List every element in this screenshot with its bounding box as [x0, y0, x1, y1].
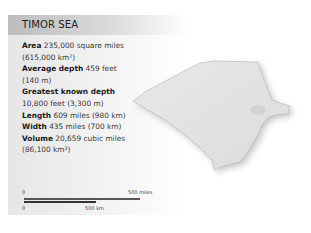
page-title: TIMOR SEA — [22, 19, 78, 30]
scale-bar: 0 500 miles 0 500 km — [22, 189, 172, 219]
gulf-bay — [250, 105, 266, 115]
scale-km-zero: 0 — [22, 205, 25, 211]
scale-km-bar — [24, 201, 96, 203]
sea-map — [120, 50, 311, 190]
scale-miles-zero: 0 — [22, 189, 25, 195]
scale-km-label: 500 km — [85, 205, 104, 211]
scale-miles-bar — [24, 198, 140, 200]
